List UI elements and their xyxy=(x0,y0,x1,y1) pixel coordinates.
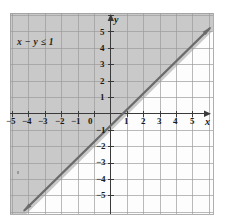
ytick-label-5: 5 xyxy=(100,28,104,37)
coordinate-plane xyxy=(0,0,225,223)
xtick-label-neg1: −1 xyxy=(71,117,80,126)
ytick-label-neg2: −2 xyxy=(96,142,105,151)
ytick-label-3: 3 xyxy=(100,60,104,69)
scan-artifact-mark xyxy=(17,171,19,174)
ytick-label-4: 4 xyxy=(100,44,104,53)
ytick-label-neg1: −1 xyxy=(96,126,105,135)
xtick-label-neg3: −3 xyxy=(38,117,47,126)
xtick-label-2: 2 xyxy=(141,117,145,126)
ytick-label-neg4: −4 xyxy=(96,175,105,184)
xtick-label-5: 5 xyxy=(190,117,194,126)
xtick-label-zero: 0 xyxy=(88,117,92,126)
inequality-graph-figure: −5 −4 −3 −2 −1 0 1 2 3 4 5 1 2 3 4 5 −1 … xyxy=(0,0,225,223)
xtick-label-neg4: −4 xyxy=(22,117,31,126)
ytick-label-neg3: −3 xyxy=(96,158,105,167)
x-axis-label: x xyxy=(205,117,210,127)
ytick-label-1: 1 xyxy=(100,93,104,102)
xtick-label-neg5: −5 xyxy=(6,117,15,126)
xtick-label-4: 4 xyxy=(173,117,177,126)
inequality-annotation: x − y ≤ 1 xyxy=(17,38,54,48)
xtick-label-1: 1 xyxy=(124,117,128,126)
ytick-label-neg5: −5 xyxy=(96,191,105,200)
ytick-label-2: 2 xyxy=(100,77,104,86)
xtick-label-3: 3 xyxy=(157,117,161,126)
xtick-label-neg2: −2 xyxy=(55,117,64,126)
y-axis-label: y xyxy=(114,15,118,25)
